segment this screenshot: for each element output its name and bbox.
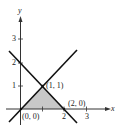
y-axis-arrow-icon — [19, 16, 23, 22]
point-label-2-0: (2, 0) — [68, 100, 85, 108]
point-label-origin: (0, 0) — [22, 113, 39, 121]
plot-area — [0, 0, 116, 132]
y-axis-label: y — [18, 7, 22, 15]
x-axis-label: x — [111, 105, 115, 113]
tick-label-y3: 3 — [12, 35, 16, 43]
tick-label-y1: 1 — [12, 82, 16, 90]
tick-label-y2: 2 — [12, 59, 16, 67]
point-label-1-1: (1, 1) — [46, 82, 63, 90]
point-2-0 — [63, 108, 65, 110]
point-1-1 — [41, 85, 43, 87]
tick-label-x2: 2 — [62, 113, 66, 121]
point-origin — [20, 108, 22, 110]
tick-label-x3: 3 — [85, 113, 89, 121]
